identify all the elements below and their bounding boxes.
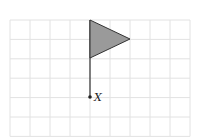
flag-diagram: X [0,0,199,140]
point-x-label: X [93,91,103,104]
point-x-dot [88,95,92,99]
